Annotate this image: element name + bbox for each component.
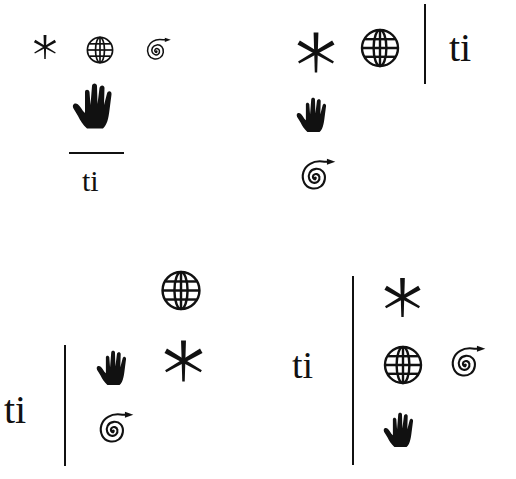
- vertical-divider: [352, 276, 354, 465]
- spiral-arrow-icon: [445, 341, 487, 385]
- globe-icon: [383, 345, 423, 385]
- ti-label: ti: [292, 346, 313, 384]
- hand-icon: [383, 408, 421, 452]
- asterisk-icon: [383, 277, 422, 318]
- panel-bottom-right: ti: [0, 0, 516, 479]
